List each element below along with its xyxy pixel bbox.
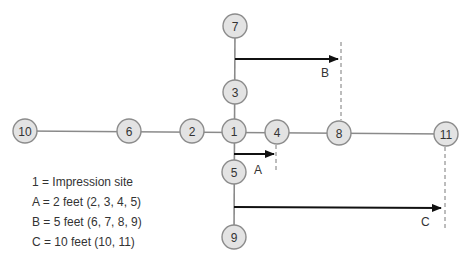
node-label: 7 [232,20,239,34]
node-label: 6 [126,125,133,139]
node-label: 3 [232,86,239,100]
legend-item-b: B = 5 feet (6, 7, 8, 9) [32,212,142,232]
node-2: 2 [180,119,204,143]
node-label: 2 [189,125,196,139]
legend-item-c: C = 10 feet (10, 11) [32,232,142,252]
label-c: C [421,215,430,229]
distance-arrow-c [234,207,441,208]
node-label: 5 [231,166,238,180]
node-8: 8 [327,121,351,145]
node-9: 9 [222,225,246,249]
label-a: A [254,163,262,177]
node-1: 1 [222,119,246,143]
label-b: B [321,66,329,80]
legend-item-a: A = 2 feet (2, 3, 4, 5) [32,192,142,212]
node-label: 9 [231,231,238,245]
node-label: 11 [440,128,453,142]
node-7: 7 [223,14,247,38]
node-3: 3 [223,80,247,104]
node-6: 6 [117,119,141,143]
node-5: 5 [222,160,246,184]
node-11: 11 [434,122,458,146]
node-label: 8 [336,127,343,141]
node-10: 10 [13,119,37,143]
legend-item-impression-site: 1 = Impression site [32,172,142,192]
node-label: 10 [18,125,32,139]
node-4: 4 [265,120,289,144]
node-label: 4 [274,126,281,140]
node-label: 1 [231,125,238,139]
legend: 1 = Impression site A = 2 feet (2, 3, 4,… [32,172,142,252]
